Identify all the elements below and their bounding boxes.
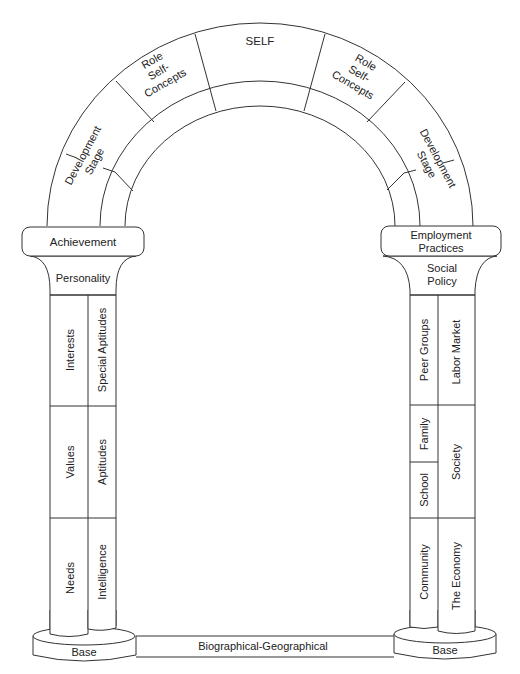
role-self-concepts-right: Role Self- Concepts [330, 45, 390, 101]
arch-outer-edge [47, 23, 473, 226]
social-policy-label-line2: Policy [427, 275, 457, 287]
family-label: Family [418, 417, 430, 450]
school-label: School [418, 473, 430, 507]
community-label: Community [418, 544, 430, 600]
right-base-label: Base [432, 644, 457, 656]
social-policy-label-line1: Social [427, 262, 457, 274]
aptitudes-label: Aptitudes [96, 439, 108, 485]
inner-divider-right [387, 173, 404, 190]
tick-right-dev-inner [404, 170, 416, 173]
peer-groups-label: Peer Groups [418, 318, 430, 381]
values-label: Values [64, 445, 76, 478]
left-base-label: Base [71, 646, 96, 658]
self-label: SELF [246, 35, 275, 47]
society-label: Society [450, 443, 462, 480]
intelligence-label: Intelligence [96, 544, 108, 600]
arch: SELF Role Self- Concepts Role Self- Conc… [47, 23, 473, 226]
needs-label: Needs [64, 562, 76, 594]
special-aptitudes-label: Special Aptitudes [96, 307, 108, 392]
inner-divider-left [115, 172, 133, 191]
employment-practices-line2: Practices [418, 242, 464, 254]
labor-market-label: Labor Market [450, 320, 462, 385]
foundation: Biographical-Geographical [136, 636, 394, 657]
arch-middle-ring [100, 81, 420, 226]
divider-right-self [304, 34, 325, 111]
right-pillar: Social Policy Employment Practices Peer … [381, 226, 501, 659]
the-economy-label: The Economy [450, 542, 462, 610]
biographical-geographical-label: Biographical-Geographical [198, 640, 328, 652]
employment-practices-line1: Employment [410, 229, 471, 241]
divider-left-self [195, 34, 216, 111]
arch-inner-ring [125, 106, 395, 226]
achievement-label: Achievement [50, 236, 117, 248]
personality-label: Personality [56, 272, 111, 284]
archway-diagram: SELF Role Self- Concepts Role Self- Conc… [0, 0, 520, 674]
interests-label: Interests [64, 328, 76, 371]
role-self-concepts-left: Role Self- Concepts [129, 43, 189, 99]
left-pillar: Personality Achievement Interests Values… [22, 227, 144, 661]
